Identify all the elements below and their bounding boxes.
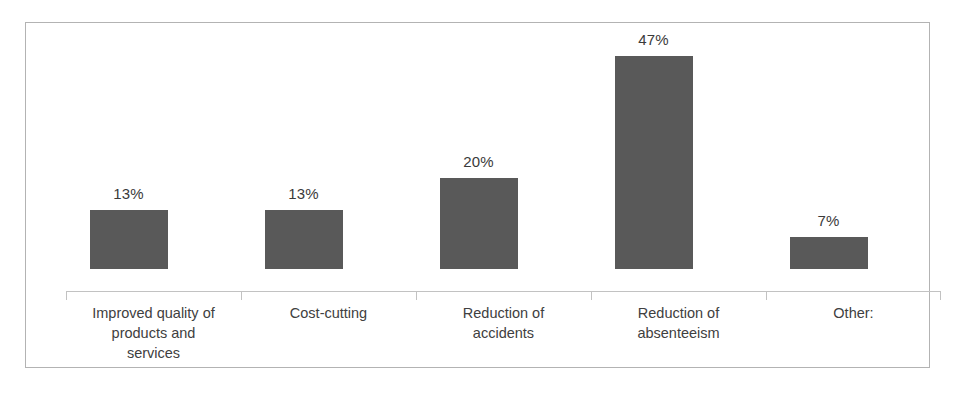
bar-rect[interactable]	[265, 210, 343, 269]
bar-group-cost-cutting[interactable]: 13%	[216, 29, 391, 269]
bar-group-other[interactable]: 7%	[741, 29, 916, 269]
axis-tick	[416, 291, 417, 300]
category-label-reduction-of-accidents: Reduction of accidents	[416, 303, 591, 363]
chart-container: 13% 13% 20% 47% 7%	[0, 0, 957, 393]
bar-series: 13% 13% 20% 47% 7%	[41, 29, 916, 269]
bar-rect[interactable]	[790, 237, 868, 269]
bar-value-label: 20%	[463, 154, 494, 169]
bar-rect[interactable]	[90, 210, 168, 269]
bar-group-improved-quality[interactable]: 13%	[41, 29, 216, 269]
category-axis-labels: Improved quality of products and service…	[66, 303, 941, 363]
bar-group-reduction-of-absenteeism[interactable]: 47%	[566, 29, 741, 269]
category-label-other: Other:	[766, 303, 941, 363]
plot-area: 13% 13% 20% 47% 7%	[41, 29, 916, 269]
category-label-reduction-of-absenteeism: Reduction of absenteeism	[591, 303, 766, 363]
chart-frame: 13% 13% 20% 47% 7%	[25, 22, 930, 368]
category-axis-ticks	[66, 291, 941, 300]
bar-value-label: 13%	[113, 186, 144, 201]
bar-value-label: 47%	[638, 32, 669, 47]
category-label-improved-quality: Improved quality of products and service…	[66, 303, 241, 363]
category-label-cost-cutting: Cost-cutting	[241, 303, 416, 363]
bar-value-label: 7%	[817, 213, 839, 228]
bar-group-reduction-of-accidents[interactable]: 20%	[391, 29, 566, 269]
axis-tick	[591, 291, 592, 300]
axis-tick	[241, 291, 242, 300]
bar-rect[interactable]	[615, 56, 693, 269]
axis-tick	[940, 291, 941, 300]
bar-rect[interactable]	[440, 178, 518, 269]
axis-tick	[766, 291, 767, 300]
bar-value-label: 13%	[288, 186, 319, 201]
axis-tick	[66, 291, 67, 300]
